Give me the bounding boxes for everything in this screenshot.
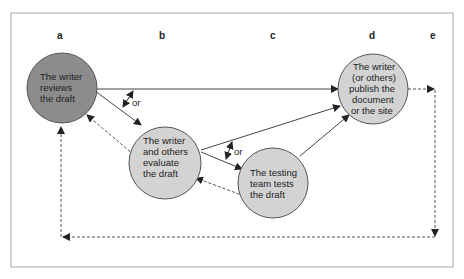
node-writer-others-evaluate: The writer and others evaluate the draft [129,127,201,199]
choice-label-or-1: or [132,97,140,108]
node-text-line: or the site [351,105,393,116]
node-text-line: evaluate [143,157,179,168]
column-label-c: c [270,30,276,41]
node-text-line: the draft [143,168,178,179]
node-text-line: and others [143,146,188,157]
node-text-line: (or others) [352,72,396,83]
node-text-line: the draft [250,189,285,200]
column-label-d: d [369,30,375,41]
node-text-line: The writer [353,61,395,72]
node-text-line: publish the [349,83,395,94]
node-testing-team-tests: The testing team tests the draft [238,148,308,218]
node-text-line: document [352,94,394,105]
node-text-line: reviews [40,82,72,93]
column-label-a: a [57,30,63,41]
node-text-line: the draft [40,93,75,104]
column-label-b: b [159,30,165,41]
node-text-line: team tests [250,178,294,189]
node-writer-reviews: The writer reviews the draft [27,53,97,123]
node-text-line: The writer [143,135,185,146]
node-text-line: The writer [40,71,82,82]
node-publish: The writer (or others) publish the docum… [338,54,408,124]
writing-review-process-diagram: a b c d e or or The writer reviews the d… [0,0,464,279]
choice-label-or-2: or [234,146,242,157]
node-text-line: The testing [250,167,297,178]
column-label-e: e [430,30,436,41]
